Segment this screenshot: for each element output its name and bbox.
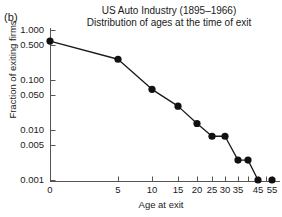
y-axis-tick-label: 0.005 — [10, 139, 44, 150]
data-series-line — [50, 41, 258, 180]
y-axis-tick-label: 0.010 — [10, 124, 44, 135]
y-axis-tick-label: 0.500 — [10, 39, 44, 50]
figure-panel-b: (b) US Auto Industry (1895–1966) Distrib… — [0, 0, 282, 217]
data-point-marker — [46, 37, 53, 44]
data-point-marker — [193, 120, 200, 127]
y-axis-tick-label: 1.000 — [10, 24, 44, 35]
data-point-marker — [234, 157, 241, 164]
y-axis-ticks — [51, 31, 56, 181]
data-point-marker — [244, 157, 251, 164]
x-axis-tick-label: 55 — [260, 184, 282, 195]
data-point-marker — [221, 133, 228, 140]
data-point-marker — [254, 176, 261, 183]
x-axis-tick-label: 5 — [106, 184, 130, 195]
y-axis-tick-label: 0.050 — [10, 89, 44, 100]
y-axis-tick-label: 0.100 — [10, 74, 44, 85]
data-series-markers — [46, 37, 275, 183]
data-point-marker — [208, 133, 215, 140]
data-point-marker — [268, 176, 275, 183]
data-point-marker — [148, 86, 155, 93]
x-axis-ticks — [51, 177, 273, 182]
data-point-marker — [114, 56, 121, 63]
data-point-marker — [174, 103, 181, 110]
x-axis-tick-label: 10 — [140, 184, 164, 195]
x-axis-tick-label: 0 — [38, 184, 62, 195]
